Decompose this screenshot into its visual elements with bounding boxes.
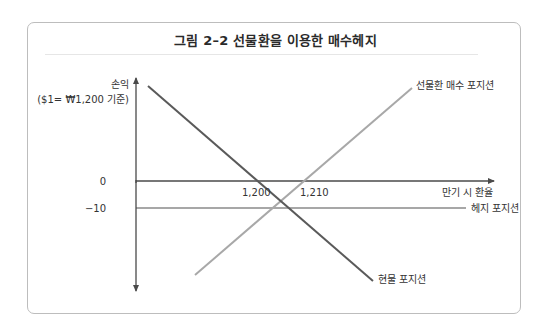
- spot-position-label: 현물 포지션: [378, 274, 426, 285]
- y-tick-0: 0: [100, 176, 106, 187]
- hedge-position-label: 헤지 포지션: [471, 203, 519, 214]
- chart-plot: 손익 ($1= ₩1,200 기준) 0 −10 1,200 1,210 만기 …: [0, 0, 551, 331]
- x-tick-1200: 1,200: [242, 187, 271, 198]
- spot-position-line: [148, 86, 373, 281]
- forward-position-label: 선물환 매수 포지션: [416, 80, 494, 91]
- x-axis-title: 만기 시 환율: [442, 187, 493, 198]
- y-axis-note: ($1= ₩1,200 기준): [37, 94, 129, 105]
- y-tick-minus10: −10: [85, 203, 106, 214]
- y-axis-title: 손익: [111, 79, 129, 90]
- x-tick-1210: 1,210: [300, 187, 329, 198]
